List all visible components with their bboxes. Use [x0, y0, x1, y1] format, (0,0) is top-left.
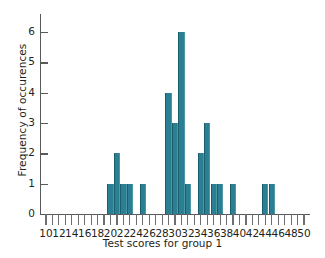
bar [185, 184, 191, 214]
x-tick-mark [232, 214, 233, 225]
x-tick-mark [91, 214, 92, 225]
x-tick-mark [239, 214, 240, 225]
x-tick-mark [252, 214, 253, 225]
x-tick-mark [271, 214, 272, 225]
y-tick-mark [40, 62, 48, 63]
bar [178, 32, 184, 214]
bar [217, 184, 223, 214]
y-tick-label: 3 [28, 116, 35, 129]
y-axis-title: Frequency of occurences [14, 20, 30, 200]
bar [114, 153, 120, 214]
y-tick-label: 5 [28, 55, 35, 68]
x-tick-mark [194, 214, 195, 225]
y-tick-label: 6 [28, 25, 35, 38]
x-tick-mark [58, 214, 59, 225]
y-tick-label: 0 [28, 207, 35, 220]
x-tick-mark [291, 214, 292, 225]
x-tick-mark [110, 214, 111, 225]
y-tick-label: 1 [28, 177, 35, 190]
x-tick-mark [303, 214, 304, 225]
x-tick-mark [103, 214, 104, 225]
x-tick-mark [155, 214, 156, 225]
x-tick-mark [84, 214, 85, 225]
histogram-chart: Frequency of occurences 0123456 10121416… [0, 0, 325, 258]
bar [107, 184, 113, 214]
y-tick-label: 2 [28, 146, 35, 159]
bar [262, 184, 268, 214]
x-tick-mark [65, 214, 66, 225]
x-tick-mark [123, 214, 124, 225]
bar [211, 184, 217, 214]
x-tick-mark [297, 214, 298, 225]
x-tick-mark [181, 214, 182, 225]
x-tick-mark [97, 214, 98, 225]
bar [140, 184, 146, 214]
x-tick-mark [284, 214, 285, 225]
x-tick-mark [245, 214, 246, 225]
x-tick-mark [220, 214, 221, 225]
x-tick-mark [213, 214, 214, 225]
bar [127, 184, 133, 214]
x-tick-mark [168, 214, 169, 225]
x-tick-mark [116, 214, 117, 225]
x-tick-mark [52, 214, 53, 225]
x-tick-mark [278, 214, 279, 225]
bar [198, 153, 204, 214]
x-tick-mark [142, 214, 143, 225]
bar [120, 184, 126, 214]
bar [269, 184, 275, 214]
x-tick-mark [200, 214, 201, 225]
bar [204, 123, 210, 214]
x-tick-mark [226, 214, 227, 225]
x-axis-title: Test scores for group 1 [0, 236, 325, 250]
y-tick-label: 4 [28, 86, 35, 99]
bar [230, 184, 236, 214]
y-tick-mark [40, 93, 48, 94]
x-tick-mark [174, 214, 175, 225]
x-tick-mark [265, 214, 266, 225]
x-tick-mark [258, 214, 259, 225]
plot-area: 0123456 10121416182022242628303234363840… [40, 14, 310, 215]
y-tick-mark [40, 32, 48, 33]
y-tick-mark [40, 153, 48, 154]
bar [165, 93, 171, 214]
x-tick-mark [149, 214, 150, 225]
x-tick-mark [162, 214, 163, 225]
x-tick-mark [71, 214, 72, 225]
y-tick-mark [40, 184, 48, 185]
x-tick-mark [207, 214, 208, 225]
x-tick-mark [78, 214, 79, 225]
x-tick-mark [187, 214, 188, 225]
x-tick-mark [45, 214, 46, 225]
x-tick-mark [129, 214, 130, 225]
x-tick-mark [136, 214, 137, 225]
bar [172, 123, 178, 214]
y-tick-mark [40, 123, 48, 124]
